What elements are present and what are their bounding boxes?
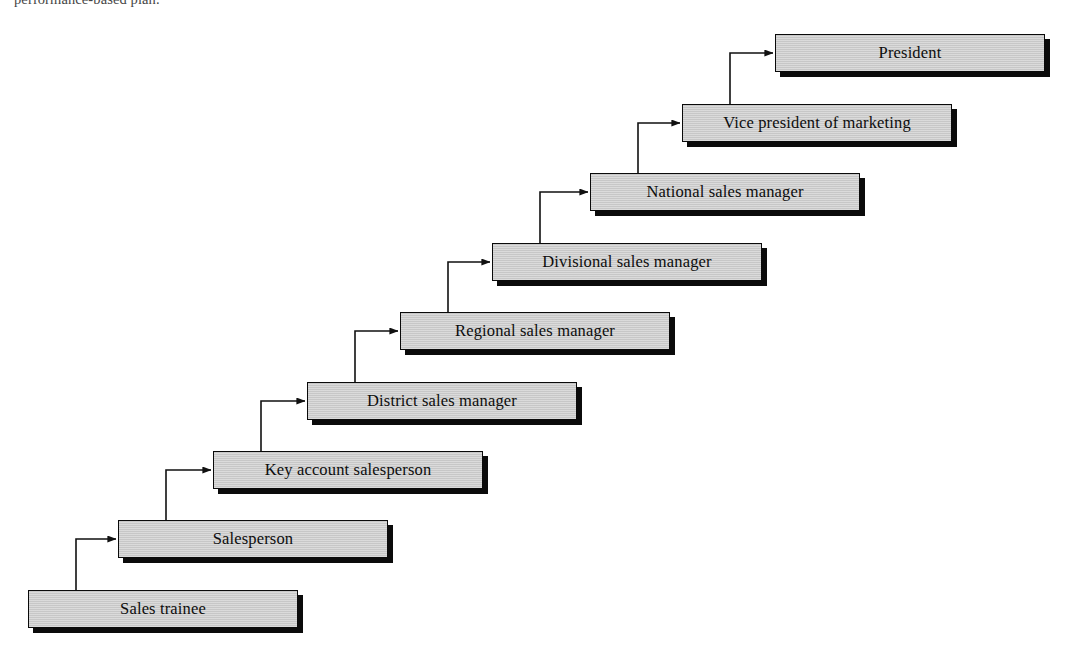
node-label-district-manager: District sales manager <box>367 393 517 410</box>
node-regional-manager[interactable]: Regional sales manager <box>400 312 670 350</box>
node-label-regional-manager: Regional sales manager <box>455 323 615 340</box>
connector-divisional-manager-to-national-manager <box>540 192 588 243</box>
node-sales-trainee[interactable]: Sales trainee <box>28 590 298 628</box>
node-vp-marketing[interactable]: Vice president of marketing <box>682 104 952 142</box>
node-divisional-manager[interactable]: Divisional sales manager <box>492 243 762 281</box>
connector-national-manager-to-vp-marketing <box>638 123 680 173</box>
node-salesperson[interactable]: Salesperson <box>118 520 388 558</box>
caption-text-fragment: performance-based plan. <box>14 0 160 7</box>
node-label-president: President <box>879 45 942 62</box>
connector-key-account-to-district-manager <box>261 401 305 451</box>
connector-district-manager-to-regional-manager <box>355 331 398 382</box>
node-label-key-account: Key account salesperson <box>265 462 432 479</box>
node-label-salesperson: Salesperson <box>213 531 293 548</box>
node-district-manager[interactable]: District sales manager <box>307 382 577 420</box>
connector-sales-trainee-to-salesperson <box>76 539 116 590</box>
node-label-divisional-manager: Divisional sales manager <box>542 254 711 271</box>
node-national-manager[interactable]: National sales manager <box>590 173 860 211</box>
connector-regional-manager-to-divisional-manager <box>448 262 490 312</box>
sales-career-path-diagram: performance-based plan. Sales traineeSal… <box>0 0 1090 666</box>
connector-vp-marketing-to-president <box>730 53 773 104</box>
node-key-account[interactable]: Key account salesperson <box>213 451 483 489</box>
node-label-vp-marketing: Vice president of marketing <box>723 115 911 132</box>
connector-salesperson-to-key-account <box>166 470 211 520</box>
node-president[interactable]: President <box>775 34 1045 72</box>
node-label-national-manager: National sales manager <box>646 184 803 201</box>
node-label-sales-trainee: Sales trainee <box>120 601 206 618</box>
